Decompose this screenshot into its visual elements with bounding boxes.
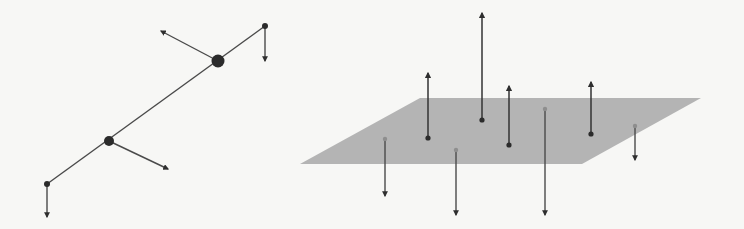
above-point [425, 135, 430, 140]
node-end-bottom [44, 181, 50, 187]
plane [300, 98, 701, 164]
beam-line [47, 26, 265, 184]
below-point [633, 124, 637, 128]
node-end-top [262, 23, 268, 29]
above-point [479, 117, 484, 122]
force-arrow-icon [109, 141, 168, 169]
diagram-canvas [0, 0, 744, 229]
below-point [454, 148, 458, 152]
above-point [506, 142, 511, 147]
figure [0, 0, 744, 229]
above-point [588, 131, 593, 136]
right-diagram [300, 13, 701, 215]
below-point [543, 107, 547, 111]
force-arrow-icon [161, 31, 218, 61]
node-mid-upper [212, 55, 225, 68]
node-mid-lower [104, 136, 114, 146]
below-point [383, 137, 387, 141]
left-diagram [44, 23, 268, 217]
